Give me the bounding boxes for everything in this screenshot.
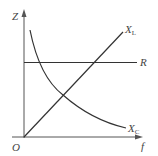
r-label: R [139,56,147,68]
xl-label-sub: L [132,29,136,37]
z-axis-label: Z [12,10,19,22]
xl-line [24,32,123,137]
impedance-frequency-diagram: Z f O XL R XC [0,0,158,156]
xl-label: XL [124,23,136,37]
origin-label: O [12,141,20,153]
f-axis-label: f [141,140,146,152]
xc-label-sub: C [135,128,140,136]
xc-label: XC [127,122,140,136]
z-axis-arrow-icon [22,9,27,17]
